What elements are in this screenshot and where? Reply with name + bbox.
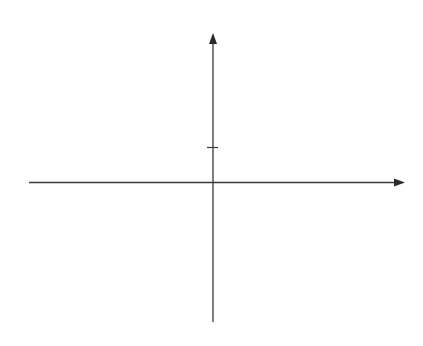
plot-area (0, 0, 423, 346)
y-axis-arrow-icon (209, 33, 217, 44)
x-axis-arrow-icon (394, 179, 405, 187)
tangent-graph (0, 0, 423, 346)
axes (29, 33, 405, 322)
